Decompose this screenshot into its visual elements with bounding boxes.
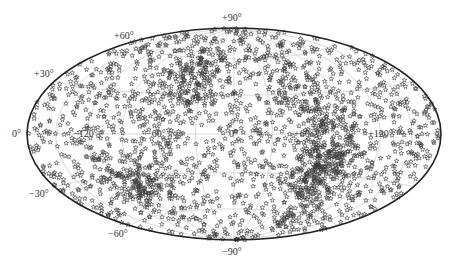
lon-label-p60: +60° (294, 129, 314, 139)
lat-label-p60: +60° (114, 31, 134, 41)
lat-label-p30: +30° (34, 69, 54, 79)
lat-label-m90: −90° (222, 247, 242, 257)
lat-label-p90: +90° (222, 13, 242, 23)
lon-label-zero: 0° (229, 129, 238, 139)
lat-label-zero: 0° (12, 129, 21, 139)
lat-label-m60: −60° (108, 229, 128, 239)
lat-label-m30: −30° (29, 189, 49, 199)
lon-label-m60: −60° (146, 129, 166, 139)
lon-label-p120: +120° (368, 129, 393, 139)
lon-label-m120: −120° (73, 129, 98, 139)
